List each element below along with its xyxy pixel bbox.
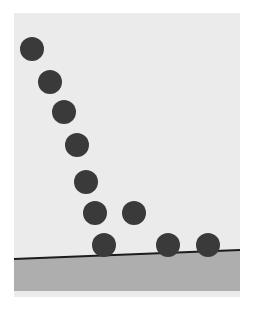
ball-position-7 [92, 233, 116, 257]
bouncing-ball-figure [0, 0, 256, 324]
ball-position-2 [38, 70, 62, 94]
ball-position-8 [122, 201, 146, 225]
ball-position-10 [196, 233, 220, 257]
ball-position-3 [52, 100, 76, 124]
ball-position-5 [74, 170, 98, 194]
figure-root: Multi-flash (strobe) photograph style il… [0, 0, 256, 324]
ball-position-1 [20, 37, 44, 61]
ball-position-9 [156, 233, 180, 257]
ball-position-6 [83, 201, 107, 225]
ball-position-4 [65, 133, 89, 157]
